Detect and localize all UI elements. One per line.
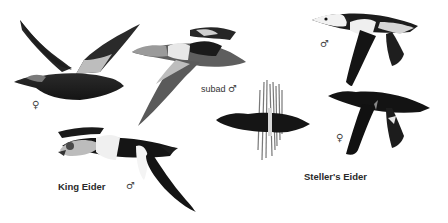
subadult-label: subad ♂ xyxy=(201,84,237,94)
female-symbol-king-eider: ♀ xyxy=(32,100,39,110)
species-label-king-eider: King Eider xyxy=(58,182,106,192)
field-guide-plate: ♀ subad ♂ ♂ ♀ King Eider ♂ Steller's Eid… xyxy=(0,0,448,223)
subad-text: subad xyxy=(201,84,226,94)
male-symbol-stellers: ♂ xyxy=(320,39,329,49)
male-symbol-king-eider: ♂ xyxy=(126,181,135,191)
female-symbol-stellers: ♀ xyxy=(336,133,343,143)
male-symbol-subad: ♂ xyxy=(228,83,237,94)
species-label-stellers-eider: Steller's Eider xyxy=(304,172,367,182)
